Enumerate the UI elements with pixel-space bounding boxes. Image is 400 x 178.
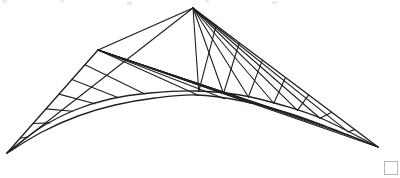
ruling-line [298, 95, 309, 111]
left-ridge-edge [7, 50, 98, 153]
right-ridge-edge [193, 8, 378, 147]
ruling-line [274, 78, 286, 104]
ruling-line [248, 60, 262, 97]
back-arch-edge [7, 95, 378, 153]
ruling-line [193, 8, 320, 118]
ruling-line [193, 8, 248, 97]
scan-artifact [2, 0, 7, 3]
scan-artifact [127, 1, 132, 5]
ruling-line [98, 50, 199, 95]
ruling-line [193, 8, 298, 110]
ruling-line [199, 25, 216, 91]
ruling-line [46, 109, 73, 111]
page-corner-marker [384, 161, 398, 175]
boundary-edges [7, 8, 378, 153]
chord-line [98, 50, 378, 147]
drawing-canvas [0, 0, 400, 178]
hypar-wireframe-figure [0, 0, 400, 178]
scan-artifact [272, 1, 277, 4]
scan-artifact [60, 0, 64, 2]
scan-artifact [205, 0, 209, 2]
ruling-line [193, 8, 274, 103]
ruling-line [193, 8, 348, 132]
upper-ridge-edge [98, 8, 193, 50]
ruling-line [72, 79, 119, 97]
long-chord-lines [7, 8, 378, 153]
